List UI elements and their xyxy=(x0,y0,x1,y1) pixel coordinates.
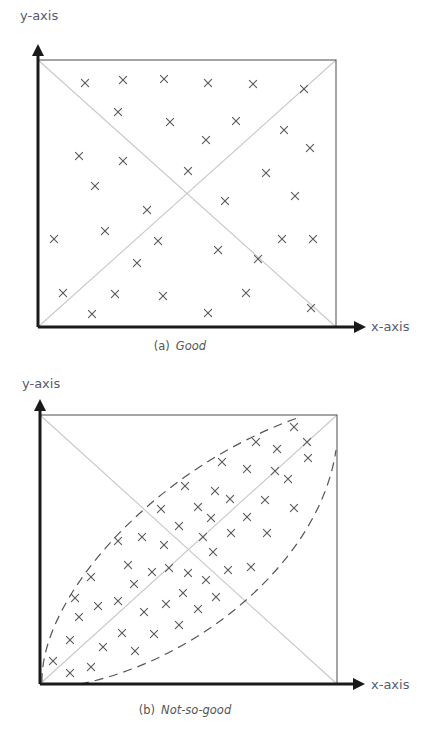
diagonal-lines xyxy=(38,60,336,327)
x-marker-icon xyxy=(131,647,138,654)
x-axis-arrow-icon xyxy=(353,678,365,690)
x-marker-icon xyxy=(280,126,287,133)
x-axis-arrow-icon xyxy=(354,321,366,333)
x-marker-icon xyxy=(304,454,311,461)
x-marker-icon xyxy=(199,533,206,540)
x-axis-label: x-axis xyxy=(371,677,410,692)
x-marker-icon xyxy=(75,152,82,159)
x-marker-icon xyxy=(162,600,169,607)
x-marker-icon xyxy=(247,563,254,570)
x-marker-icon xyxy=(214,246,221,253)
x-marker-icon xyxy=(94,602,101,609)
x-marker-icon xyxy=(175,522,182,529)
x-marker-icon xyxy=(119,76,126,83)
x-marker-icon xyxy=(271,467,278,474)
x-marker-icon xyxy=(66,636,73,643)
x-marker-icon xyxy=(148,568,155,575)
x-marker-icon xyxy=(175,621,182,628)
x-marker-icon xyxy=(262,169,269,176)
x-marker-icon xyxy=(114,537,121,544)
x-marker-icon xyxy=(118,629,125,636)
y-axis-arrow-icon xyxy=(34,399,46,411)
x-marker-icon xyxy=(181,482,188,489)
x-marker-icon xyxy=(88,310,95,317)
x-marker-icon xyxy=(50,235,57,242)
x-marker-icon xyxy=(204,79,211,86)
scatter-points xyxy=(49,423,311,676)
x-marker-icon xyxy=(101,227,108,234)
x-marker-icon xyxy=(143,206,150,213)
x-marker-icon xyxy=(160,541,167,548)
caption-text: Good xyxy=(176,339,207,353)
x-marker-icon xyxy=(224,566,231,573)
x-marker-icon xyxy=(232,117,239,124)
x-marker-icon xyxy=(226,495,233,502)
x-marker-icon xyxy=(243,465,250,472)
x-marker-icon xyxy=(209,548,216,555)
axes xyxy=(34,399,365,690)
x-marker-icon xyxy=(261,496,268,503)
dashed-boundary xyxy=(42,417,300,682)
x-marker-icon xyxy=(194,605,201,612)
x-marker-icon xyxy=(66,669,73,676)
x-marker-icon xyxy=(99,643,106,650)
x-marker-icon xyxy=(242,289,249,296)
x-marker-icon xyxy=(252,438,259,445)
x-marker-icon xyxy=(150,630,157,637)
x-marker-icon xyxy=(207,514,214,521)
x-marker-icon xyxy=(130,580,137,587)
x-marker-icon xyxy=(194,503,201,510)
x-axis-label: x-axis xyxy=(371,319,410,334)
x-marker-icon xyxy=(140,608,147,615)
x-marker-icon xyxy=(306,144,313,151)
x-marker-icon xyxy=(303,438,310,445)
x-marker-icon xyxy=(300,85,307,92)
x-marker-icon xyxy=(91,182,98,189)
caption-text: Not-so-good xyxy=(161,703,232,717)
x-marker-icon xyxy=(284,475,291,482)
x-marker-icon xyxy=(166,118,173,125)
x-marker-icon xyxy=(165,564,172,571)
x-marker-icon xyxy=(154,237,161,244)
x-marker-icon xyxy=(179,589,186,596)
x-marker-icon xyxy=(211,487,218,494)
figure-a: y-axis x-axis (a)Good xyxy=(20,8,410,353)
x-marker-icon xyxy=(138,533,145,540)
x-marker-icon xyxy=(114,597,121,604)
x-marker-icon xyxy=(278,235,285,242)
x-marker-icon xyxy=(227,529,234,536)
x-marker-icon xyxy=(291,192,298,199)
x-marker-icon xyxy=(184,167,191,174)
caption-prefix: (a) xyxy=(154,339,170,353)
y-axis-arrow-icon xyxy=(32,44,44,56)
x-marker-icon xyxy=(204,309,211,316)
x-marker-icon xyxy=(273,445,280,452)
x-marker-icon xyxy=(87,573,94,580)
x-marker-icon xyxy=(218,458,225,465)
y-axis-label: y-axis xyxy=(22,376,60,391)
x-marker-icon xyxy=(87,663,94,670)
x-marker-icon xyxy=(157,505,164,512)
y-axis-label: y-axis xyxy=(20,8,58,23)
x-marker-icon xyxy=(59,289,66,296)
figure-caption: (a)Good xyxy=(154,339,207,353)
caption-prefix: (b) xyxy=(139,703,155,717)
x-marker-icon xyxy=(184,569,191,576)
x-marker-icon xyxy=(202,136,209,143)
x-marker-icon xyxy=(111,290,118,297)
x-marker-icon xyxy=(243,513,250,520)
x-marker-icon xyxy=(119,157,126,164)
figure-canvas: y-axis x-axis (a)Good y-axis x-axis (b)N… xyxy=(0,0,439,742)
x-marker-icon xyxy=(81,79,88,86)
x-marker-icon xyxy=(307,304,314,311)
axes xyxy=(32,44,366,333)
x-marker-icon xyxy=(160,75,167,82)
x-marker-icon xyxy=(71,594,78,601)
x-marker-icon xyxy=(159,292,166,299)
x-marker-icon xyxy=(124,561,131,568)
x-marker-icon xyxy=(75,613,82,620)
x-marker-icon xyxy=(212,593,219,600)
figure-b: y-axis x-axis (b)Not-so-good xyxy=(22,376,410,717)
x-marker-icon xyxy=(290,423,297,430)
x-marker-icon xyxy=(309,235,316,242)
